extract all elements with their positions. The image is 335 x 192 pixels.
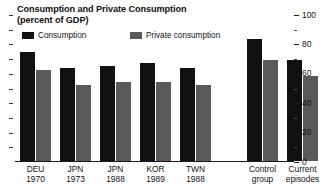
y-axis-tick-label: 80: [302, 39, 311, 49]
bar-consumption: [60, 68, 75, 161]
y-axis-minor-tick-mark: [294, 147, 297, 148]
left-minor-tick: [9, 118, 13, 119]
left-minor-tick: [9, 59, 13, 60]
bar-consumption: [140, 63, 155, 162]
y-axis-tick-mark: [294, 103, 299, 104]
bar-private-consumption: [36, 70, 51, 161]
bar-private-consumption: [263, 60, 278, 161]
bar-consumption: [20, 52, 35, 161]
left-minor-tick: [9, 30, 13, 31]
bar-consumption: [247, 39, 262, 161]
y-axis-tick-mark: [294, 133, 299, 134]
y-axis-minor-tick-mark: [294, 59, 297, 60]
left-minor-tick: [9, 15, 13, 16]
x-axis-baseline: [15, 161, 294, 162]
y-axis-tick-mark: [294, 15, 299, 16]
bar-private-consumption: [156, 82, 171, 161]
bar-consumption: [100, 66, 115, 162]
y-axis-tick-mark: [294, 162, 299, 163]
y-axis-tick-mark: [294, 74, 299, 75]
y-axis-minor-tick-mark: [294, 30, 297, 31]
chart-figure: Consumption and Private Consumption (per…: [0, 0, 335, 192]
left-minor-tick: [9, 44, 13, 45]
plot-area: [15, 14, 294, 162]
bar-private-consumption: [116, 82, 131, 161]
bar-private-consumption: [196, 85, 211, 161]
bar-private-consumption: [76, 85, 91, 161]
category-label-line2: 1988: [173, 174, 219, 184]
category-label-line1: TWN: [173, 164, 219, 174]
y-axis-tick-label: 20: [302, 127, 311, 137]
y-axis-tick-label: 60: [302, 68, 311, 78]
y-axis-minor-tick-mark: [294, 89, 297, 90]
y-axis: 020406080100: [294, 0, 335, 192]
left-minor-tick: [9, 133, 13, 134]
left-minor-tick: [9, 89, 13, 90]
y-axis-tick-mark: [294, 44, 299, 45]
left-minor-tick: [9, 103, 13, 104]
bar-consumption: [180, 68, 195, 161]
y-axis-minor-tick-mark: [294, 118, 297, 119]
y-axis-tick-label: 0: [302, 157, 307, 167]
category-label: TWN1988: [173, 164, 219, 184]
y-axis-tick-label: 100: [302, 10, 316, 20]
left-minor-tick: [9, 147, 13, 148]
left-minor-tick: [9, 74, 13, 75]
y-axis-tick-label: 40: [302, 98, 311, 108]
